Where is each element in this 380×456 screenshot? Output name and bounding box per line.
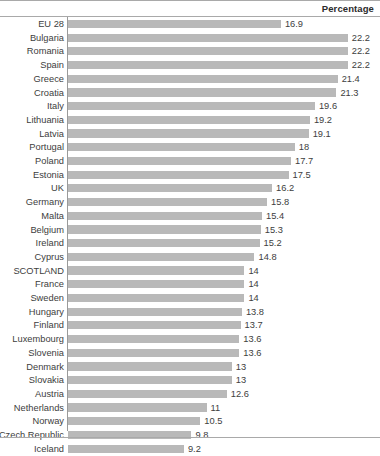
bar-row: Spain22.2 xyxy=(0,59,380,73)
bar-category-label: UK xyxy=(0,183,67,193)
bar-value-label: 11 xyxy=(211,403,221,413)
bar-fill xyxy=(68,129,309,137)
bar-row: Lithuania19.2 xyxy=(0,113,380,127)
bar-row: EU 2816.9 xyxy=(0,18,380,32)
bar-fill xyxy=(68,47,348,55)
bar xyxy=(68,171,289,179)
bar xyxy=(68,212,262,220)
bar-fill xyxy=(68,403,207,411)
bar-category-label: Malta xyxy=(0,211,67,221)
bar-fill xyxy=(68,157,291,165)
bar-value-label: 19.2 xyxy=(314,115,332,125)
bar-category-label: Austria xyxy=(0,389,67,399)
bar-value-label: 9.2 xyxy=(188,444,201,454)
bar-fill xyxy=(68,390,227,398)
bar xyxy=(68,129,309,137)
bar-fill xyxy=(68,445,184,453)
bar-category-label: Sweden xyxy=(0,293,67,303)
bar-category-label: Bulgaria xyxy=(0,33,67,43)
bar-category-label: Belgium xyxy=(0,225,67,235)
bar xyxy=(68,225,261,233)
bar-value-label: 10.5 xyxy=(204,416,222,426)
bar-row: Ireland15.2 xyxy=(0,237,380,251)
bar-row: Netherlands11 xyxy=(0,401,380,415)
bar-row: Denmark13 xyxy=(0,360,380,374)
bar xyxy=(68,157,291,165)
bar-row: Croatia21.3 xyxy=(0,86,380,100)
bar-row: Austria12.6 xyxy=(0,387,380,401)
bar-category-label: Greece xyxy=(0,74,67,84)
bar-value-label: 19.6 xyxy=(319,101,337,111)
bar xyxy=(68,390,227,398)
bar-category-label: Germany xyxy=(0,197,67,207)
bar-value-label: 9.8 xyxy=(195,430,208,440)
bar-row: UK16.2 xyxy=(0,182,380,196)
bar-value-label: 18 xyxy=(299,142,309,152)
bar-fill xyxy=(68,266,244,274)
bar-fill xyxy=(68,362,232,370)
bar-fill xyxy=(68,75,338,83)
bar-value-label: 16.9 xyxy=(285,19,303,29)
bar-value-label: 15.3 xyxy=(265,225,283,235)
bar-value-label: 17.7 xyxy=(295,156,313,166)
bar-row: Slovakia13 xyxy=(0,374,380,388)
bar xyxy=(68,184,272,192)
bar-row: SCOTLAND14 xyxy=(0,264,380,278)
bar-row: Italy19.6 xyxy=(0,100,380,114)
bar-value-label: 13 xyxy=(236,362,246,372)
bar-row: Portugal18 xyxy=(0,141,380,155)
bar xyxy=(68,143,295,151)
bar xyxy=(68,198,267,206)
bar xyxy=(68,294,244,302)
bar-category-label: Estonia xyxy=(0,170,67,180)
bar xyxy=(68,321,241,329)
bar xyxy=(68,403,207,411)
bar-category-label: Denmark xyxy=(0,362,67,372)
bar-value-label: 22.2 xyxy=(352,46,370,56)
chart-plot-area: EU 2816.9Bulgaria22.2Romania22.2Spain22.… xyxy=(0,17,380,436)
bar-category-label: Slovakia xyxy=(0,375,67,385)
bar-category-label: Latvia xyxy=(0,129,67,139)
bar-value-label: 12.6 xyxy=(231,389,249,399)
bar-row: France14 xyxy=(0,278,380,292)
bar-category-label: Poland xyxy=(0,156,67,166)
bar xyxy=(68,417,200,425)
bar-value-label: 22.2 xyxy=(352,60,370,70)
bar-fill xyxy=(68,116,310,124)
bar-category-label: Hungary xyxy=(0,307,67,317)
bar-fill xyxy=(68,253,254,261)
bar-category-label: Netherlands xyxy=(0,403,67,413)
bar-fill xyxy=(68,335,239,343)
bar xyxy=(68,88,336,96)
bar-value-label: 13.7 xyxy=(245,320,263,330)
bar-value-label: 13.6 xyxy=(243,334,261,344)
bar-value-label: 21.3 xyxy=(340,88,358,98)
bar-fill xyxy=(68,212,262,220)
bar-category-label: Norway xyxy=(0,416,67,426)
bar-value-label: 15.4 xyxy=(266,211,284,221)
bar-row: Sweden14 xyxy=(0,292,380,306)
bar-row: Iceland9.2 xyxy=(0,442,380,456)
bar xyxy=(68,20,281,28)
bar-fill xyxy=(68,102,315,110)
bar-row: Bulgaria22.2 xyxy=(0,31,380,45)
bar-row: Latvia19.1 xyxy=(0,127,380,141)
bar-fill xyxy=(68,321,241,329)
bar-row: Hungary13.8 xyxy=(0,305,380,319)
bar-category-label: Lithuania xyxy=(0,115,67,125)
bar xyxy=(68,308,242,316)
bar-row: Germany15.8 xyxy=(0,196,380,210)
bar-category-label: Czech Republic xyxy=(0,430,67,440)
bar xyxy=(68,349,239,357)
bar-row: Poland17.7 xyxy=(0,155,380,169)
bar xyxy=(68,445,184,453)
bar xyxy=(68,102,315,110)
bar-row: Czech Republic9.8 xyxy=(0,429,380,443)
bar-value-label: 21.4 xyxy=(342,74,360,84)
bar-fill xyxy=(68,20,281,28)
bar xyxy=(68,61,348,69)
bar xyxy=(68,376,232,384)
column-header-percentage: Percentage xyxy=(322,3,374,14)
bar-row: Romania22.2 xyxy=(0,45,380,59)
